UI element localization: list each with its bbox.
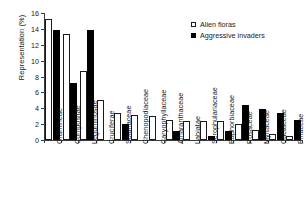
legend-swatch-filled (191, 33, 196, 38)
x-axis-category-label: Cactaceae (279, 109, 288, 144)
y-axis-tick (41, 61, 44, 62)
x-axis-category-label: Compositae (73, 105, 82, 144)
y-axis-tick (41, 92, 44, 93)
chart-legend: Alien florasAggressive invaders (191, 19, 265, 41)
x-axis-category-label: Caryophyllaceae (159, 90, 168, 144)
x-axis-category-label: Gramineae (55, 108, 64, 144)
legend-label: Aggressive invaders (200, 31, 265, 40)
legend-item: Aggressive invaders (191, 30, 265, 41)
y-axis-tick-label: 6 (35, 88, 39, 97)
y-axis-tick-label: 2 (35, 120, 39, 129)
y-axis-tick-label: 14 (31, 24, 39, 33)
y-axis-tick (41, 108, 44, 109)
y-axis-tick-label: 12 (31, 40, 39, 49)
y-axis-tick (41, 13, 44, 14)
y-axis-tick-label: 8 (35, 72, 39, 81)
y-axis-title: Representation (%) (17, 0, 26, 113)
x-axis-category-label: Rosaceae (245, 111, 254, 144)
x-axis-category-label: Euphorbiaceae (227, 95, 236, 144)
x-axis-category-label: Scrophulariaceae (210, 87, 219, 144)
y-axis-tick (41, 124, 44, 125)
y-axis-tick (41, 45, 44, 46)
bar-open (45, 19, 52, 140)
x-axis-category-label: Pinaceae (296, 114, 305, 144)
x-axis-tick (44, 140, 45, 143)
x-axis-category-label: Labiatae (193, 116, 202, 144)
y-axis-tick-label: 0 (35, 136, 39, 145)
y-axis-tick-label: 4 (35, 104, 39, 113)
x-axis-category-label: Amaranthaceae (176, 93, 185, 144)
y-axis-tick (41, 77, 44, 78)
x-axis-category-label: Solanaceae (124, 106, 133, 144)
y-axis-tick-label: 10 (31, 56, 39, 65)
y-axis-tick (41, 29, 44, 30)
legend-swatch-open (191, 22, 196, 27)
x-axis-category-label: Cruciferae (107, 110, 116, 144)
legend-label: Alien floras (200, 20, 236, 29)
x-axis-category-label: Leguminosae (90, 100, 99, 144)
x-axis-category-label: Myrtaceae (262, 110, 271, 144)
legend-item: Alien floras (191, 19, 265, 30)
x-axis-category-label: Chenopodiaceae (141, 89, 150, 144)
y-axis-tick-label: 16 (31, 9, 39, 18)
bar-chart-figure: Representation (%) 0246810121416 Gramine… (0, 0, 308, 223)
